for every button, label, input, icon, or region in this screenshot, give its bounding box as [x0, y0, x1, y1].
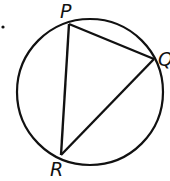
segment-qr: [61, 59, 154, 155]
circle: [17, 19, 163, 165]
label-q: Q: [158, 48, 170, 70]
label-r: R: [50, 158, 63, 180]
inscribed-triangle-diagram: P Q R: [0, 0, 170, 181]
bullet-dot: [1, 25, 4, 28]
segment-rp: [61, 24, 69, 155]
label-p: P: [60, 0, 72, 22]
